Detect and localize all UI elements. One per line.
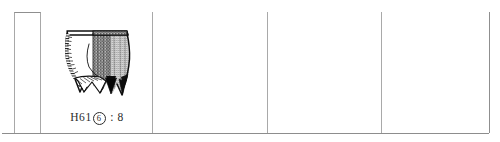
table-cell-index — [14, 12, 41, 133]
table-bottom-rule — [2, 133, 489, 134]
table-cell-specimen-4 — [382, 12, 489, 133]
specimen-caption-separator: : — [107, 111, 118, 123]
pottery-li-tripod-vessel-icon — [58, 18, 136, 104]
table-right-edge — [489, 12, 490, 133]
specimen-caption: H616 : 8 — [42, 111, 152, 125]
specimen-caption-prefix: H61 — [70, 111, 92, 123]
table-cell-specimen-3 — [268, 12, 381, 133]
table-cell-specimen-2 — [153, 12, 267, 133]
specimen-caption-circled-number: 6 — [93, 112, 106, 125]
specimen-caption-suffix: 8 — [118, 111, 124, 123]
artifact-catalog-figure: H616 : 8 — [0, 0, 500, 142]
table-cell-specimen: H616 : 8 — [42, 12, 152, 133]
